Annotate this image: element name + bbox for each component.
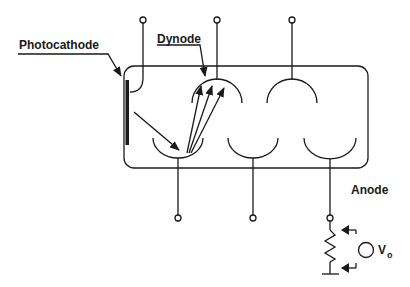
photocathode xyxy=(126,80,130,145)
load-resistor xyxy=(322,221,339,274)
photocathode-label: Photocathode xyxy=(19,38,99,52)
output-voltage-symbol: V xyxy=(378,243,386,257)
dynode-1 xyxy=(153,138,203,158)
electron-paths xyxy=(134,86,224,153)
output-voltage-subscript: o xyxy=(387,250,393,260)
top-terminals xyxy=(130,17,295,92)
anode xyxy=(304,138,356,159)
output-voltage-meter xyxy=(359,243,374,258)
output-arrows xyxy=(342,230,356,268)
dynode-label: Dynode xyxy=(157,32,201,46)
pmt-diagram: Photocathode Dynode Anode V o xyxy=(0,0,410,287)
dynode-leader xyxy=(157,45,205,76)
photocathode-leader xyxy=(18,54,121,76)
anode-label: Anode xyxy=(351,183,389,197)
dynode-4 xyxy=(267,79,317,103)
dynode-3 xyxy=(228,138,278,158)
